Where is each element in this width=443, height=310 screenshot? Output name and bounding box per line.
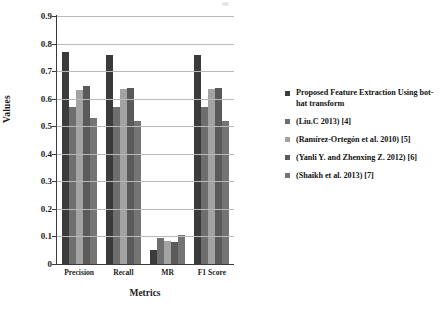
y-tick-label: 0.4	[6, 150, 52, 158]
legend-swatch-icon	[285, 173, 290, 178]
x-axis-tick-labels: PrecisionRecallMRF1 Score	[57, 268, 234, 277]
legend-label: Proposed Feature Extraction Using bot-ha…	[296, 88, 443, 109]
plot-area: Values 00.10.20.30.40.50.60.70.80.9 Prec…	[0, 0, 245, 310]
y-tick-label: 0.5	[6, 122, 52, 130]
bar-group	[103, 16, 143, 264]
bar	[120, 89, 127, 264]
legend: Proposed Feature Extraction Using bot-ha…	[285, 88, 443, 189]
bar	[113, 107, 120, 264]
bar-group	[192, 16, 232, 264]
legend-item[interactable]: (Shaikh et al. 2013) [7]	[285, 171, 443, 182]
bar	[90, 118, 97, 264]
y-tick-label: 0.3	[6, 177, 52, 185]
gridline	[57, 181, 234, 182]
y-axis-tick-labels: 00.10.20.30.40.50.60.70.80.9	[0, 0, 52, 310]
bar	[222, 121, 229, 264]
legend-label: (Shaikh et al. 2013) [7]	[296, 171, 374, 182]
gridline	[57, 99, 234, 100]
bar	[171, 242, 178, 264]
legend-item[interactable]: (Ramírez-Ortegón et al. 2010) [5]	[285, 135, 443, 146]
bar-group	[59, 16, 99, 264]
bar	[208, 89, 215, 264]
y-tick-label: 0.9	[6, 12, 52, 20]
gridline	[57, 16, 234, 17]
gridline	[57, 126, 234, 127]
gridline	[57, 154, 234, 155]
legend-label: (Liu.C 2013) [4]	[296, 117, 351, 128]
x-tick-label: Recall	[101, 268, 145, 277]
chart-figure: Values 00.10.20.30.40.50.60.70.80.9 Prec…	[0, 0, 443, 310]
legend-swatch-icon	[285, 91, 290, 96]
x-tick-label: F1 Score	[190, 268, 234, 277]
bar	[215, 88, 222, 264]
legend-swatch-icon	[285, 119, 290, 124]
x-tick-label: Precision	[57, 268, 101, 277]
bar	[69, 107, 76, 264]
legend-label: (Yanli Y. and Zhenxing Z. 2012) [6]	[296, 153, 417, 164]
gridline	[57, 71, 234, 72]
bar	[150, 250, 157, 264]
bar	[62, 52, 69, 264]
bar	[164, 241, 171, 264]
legend-item[interactable]: (Yanli Y. and Zhenxing Z. 2012) [6]	[285, 153, 443, 164]
bar	[127, 88, 134, 264]
x-axis-title: Metrics	[55, 288, 235, 298]
legend-swatch-icon	[285, 137, 290, 142]
axes	[57, 16, 234, 264]
scan-artifact	[222, 2, 229, 6]
bar	[178, 235, 185, 264]
legend-item[interactable]: (Liu.C 2013) [4]	[285, 117, 443, 128]
legend-swatch-icon	[285, 155, 290, 160]
y-tick-label: 0.7	[6, 67, 52, 75]
gridline	[57, 44, 234, 45]
legend-label: (Ramírez-Ortegón et al. 2010) [5]	[296, 135, 410, 146]
gridline	[57, 236, 234, 237]
y-tick-label: 0.6	[6, 95, 52, 103]
y-tick-label: 0.8	[6, 40, 52, 48]
y-tick-label: 0.1	[6, 232, 52, 240]
gridline	[57, 209, 234, 210]
bar	[134, 121, 141, 264]
bar	[106, 55, 113, 264]
bar-group	[148, 16, 188, 264]
x-tick-label: MR	[146, 268, 190, 277]
bar-groups	[57, 16, 234, 264]
bar	[157, 238, 164, 264]
bar	[201, 107, 208, 264]
y-tick-label: 0.2	[6, 205, 52, 213]
bar	[76, 90, 83, 264]
y-tick-label: 0	[6, 260, 52, 268]
bar	[194, 55, 201, 264]
legend-item[interactable]: Proposed Feature Extraction Using bot-ha…	[285, 88, 443, 109]
